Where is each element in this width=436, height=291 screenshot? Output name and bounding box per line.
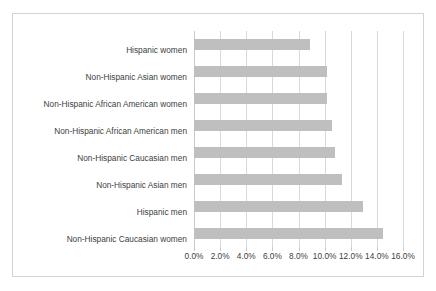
category-label: Non-Hispanic African American men [54, 125, 187, 138]
gridline [325, 31, 326, 247]
bar [194, 66, 327, 77]
value-axis-line [194, 31, 195, 247]
category-label: Non-Hispanic Caucasian men [77, 152, 187, 165]
axis-tick-label: 8.0% [289, 250, 308, 262]
chart-figure: Hispanic womenNon-Hispanic Asian womenNo… [12, 13, 424, 277]
bar [194, 201, 363, 212]
bar [194, 147, 335, 158]
category-label: Non-Hispanic Asian women [86, 71, 187, 84]
value-axis-tick-labels: 0.0%2.0%4.0%6.0%8.0%10.0%12.0%14.0%16.0% [194, 250, 409, 264]
axis-tick-label: 16.0% [391, 250, 415, 262]
category-label: Non-Hispanic Caucasian women [67, 233, 187, 246]
gridline [403, 31, 404, 247]
bar [194, 120, 332, 131]
axis-tick-label: 0.0% [185, 250, 204, 262]
gridline [272, 31, 273, 247]
category-label: Hispanic men [137, 206, 187, 219]
plot-area [194, 31, 403, 247]
bar [194, 39, 310, 50]
axis-tick-label: 2.0% [211, 250, 230, 262]
axis-tick-label: 6.0% [263, 250, 282, 262]
axis-tick-label: 12.0% [339, 250, 363, 262]
axis-tick-label: 10.0% [313, 250, 337, 262]
gridline [246, 31, 247, 247]
gridline [351, 31, 352, 247]
gridline [377, 31, 378, 247]
bar [194, 93, 327, 104]
axis-tick-label: 4.0% [237, 250, 256, 262]
category-label: Hispanic women [126, 44, 187, 57]
category-label: Non-Hispanic Asian men [96, 179, 187, 192]
bar [194, 228, 383, 239]
bar-chart: Hispanic womenNon-Hispanic Asian womenNo… [13, 14, 423, 276]
category-axis-labels: Hispanic womenNon-Hispanic Asian womenNo… [13, 37, 191, 245]
category-label: Non-Hispanic African American women [44, 98, 187, 111]
bar [194, 174, 342, 185]
axis-tick-label: 14.0% [365, 250, 389, 262]
gridline [299, 31, 300, 247]
gridline [220, 31, 221, 247]
